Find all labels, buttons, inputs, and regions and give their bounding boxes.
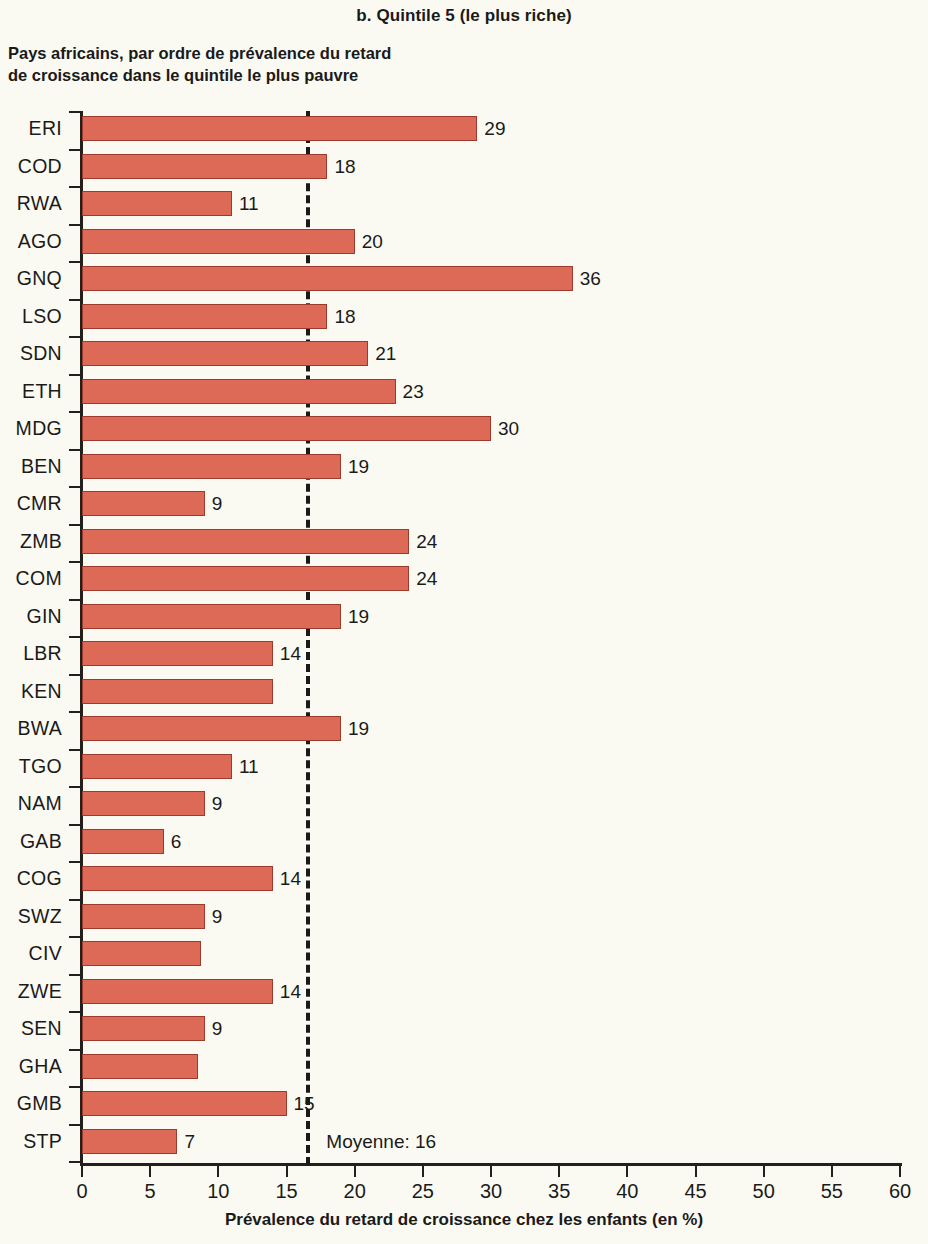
y-axis-tick [69,561,80,563]
x-axis-tick [217,1166,219,1177]
x-axis-tick [558,1166,560,1177]
category-label-sen: SEN [0,1017,62,1040]
bar-civ [82,941,201,966]
bar-cmr [82,491,205,516]
bar-nam [82,791,205,816]
x-axis-tick [286,1166,288,1177]
y-axis-tick [69,374,80,376]
bar-cod [82,154,327,179]
category-label-ken: KEN [0,680,62,703]
x-axis-tick [422,1166,424,1177]
y-axis-tick [69,1011,80,1013]
bar-value-com: 24 [416,568,437,590]
y-axis-tick [69,336,80,338]
category-label-eth: ETH [0,380,62,403]
y-axis-tick [69,486,80,488]
category-label-swz: SWZ [0,905,62,928]
category-label-tgo: TGO [0,755,62,778]
category-label-com: COM [0,567,62,590]
bar-sdn [82,341,368,366]
bar-value-ben: 19 [348,456,369,478]
bar-rwa [82,191,232,216]
category-label-bwa: BWA [0,717,62,740]
y-axis-tick [69,224,80,226]
y-axis-tick [69,299,80,301]
bar-zwe [82,979,273,1004]
y-axis-tick [69,599,80,601]
y-axis-tick [69,1086,80,1088]
x-axis-tick [763,1166,765,1177]
category-label-civ: CIV [0,942,62,965]
bar-value-ago: 20 [362,231,383,253]
bar-value-cod: 18 [334,156,355,178]
bar-value-cog: 14 [280,868,301,890]
y-axis-tick [69,1049,80,1051]
category-label-gin: GIN [0,605,62,628]
bar-value-zwe: 14 [280,981,301,1003]
bar-stp [82,1129,177,1154]
category-label-mdg: MDG [0,417,62,440]
bar-gin [82,604,341,629]
category-label-lbr: LBR [0,642,62,665]
bar-lso [82,304,327,329]
bar-chart: Moyenne: 16 051015202530354045505560ERI2… [0,0,928,1244]
bar-com [82,566,409,591]
x-axis-tick-label: 5 [120,1180,180,1203]
category-label-sdn: SDN [0,342,62,365]
x-axis-tick-label: 40 [597,1180,657,1203]
y-axis-tick [69,1161,80,1163]
y-axis-tick [69,186,80,188]
y-axis-tick [69,636,80,638]
bar-value-swz: 9 [212,906,223,928]
x-axis-tick-label: 25 [393,1180,453,1203]
x-axis-tick-label: 20 [325,1180,385,1203]
bar-swz [82,904,205,929]
bar-value-stp: 7 [184,1131,195,1153]
y-axis-tick [69,974,80,976]
category-label-ago: AGO [0,230,62,253]
bar-value-sen: 9 [212,1018,223,1040]
bar-value-cmr: 9 [212,493,223,515]
y-axis-tick [69,111,80,113]
category-label-eri: ERI [0,117,62,140]
average-annotation-label: Moyenne: 16 [326,1131,436,1153]
y-axis-tick [69,899,80,901]
category-label-stp: STP [0,1130,62,1153]
bar-value-eth: 23 [403,381,424,403]
y-axis-tick [69,749,80,751]
y-axis-tick [69,936,80,938]
x-axis-tick-label: 0 [52,1180,112,1203]
y-axis-tick [69,149,80,151]
category-label-ben: BEN [0,455,62,478]
category-label-cod: COD [0,155,62,178]
bar-value-zmb: 24 [416,531,437,553]
x-axis-title: Prévalence du retard de croissance chez … [0,1210,928,1230]
x-axis-tick-label: 50 [734,1180,794,1203]
x-axis-tick [831,1166,833,1177]
category-label-cmr: CMR [0,492,62,515]
x-axis-tick [490,1166,492,1177]
y-axis-tick [69,261,80,263]
bar-eth [82,379,396,404]
bar-bwa [82,716,341,741]
bar-zmb [82,529,409,554]
x-axis-tick [81,1166,83,1177]
bar-ben [82,454,341,479]
category-label-cog: COG [0,867,62,890]
y-axis-tick [69,674,80,676]
bar-value-eri: 29 [484,118,505,140]
bar-value-bwa: 19 [348,718,369,740]
y-axis-tick [69,1124,80,1126]
bar-value-gab: 6 [171,831,182,853]
bar-tgo [82,754,232,779]
bar-value-lbr: 14 [280,643,301,665]
x-axis-tick [149,1166,151,1177]
bar-value-rwa: 11 [239,193,259,215]
bar-gnq [82,266,573,291]
category-label-gab: GAB [0,830,62,853]
x-axis-tick-label: 45 [666,1180,726,1203]
x-axis-tick-label: 55 [802,1180,862,1203]
bar-gmb [82,1091,287,1116]
bar-value-lso: 18 [334,306,355,328]
x-axis-tick-label: 15 [257,1180,317,1203]
